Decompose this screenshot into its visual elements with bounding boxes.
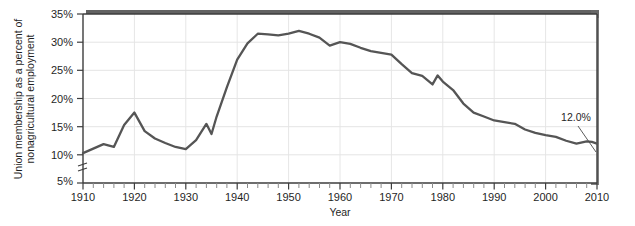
x-tick-label: 1910 <box>71 191 95 203</box>
x-tick-label: 1950 <box>276 191 300 203</box>
x-tick-label: 1990 <box>482 191 506 203</box>
x-tick-label: 1970 <box>379 191 403 203</box>
y-tick-label: 5% <box>57 175 73 187</box>
union-membership-chart: 35% 30% 25% 20% 15% 10% 5% <box>0 0 635 226</box>
y-tick-label: 20% <box>51 93 73 105</box>
y-tick-label: 15% <box>51 121 73 133</box>
x-tick-label: 2010 <box>585 191 609 203</box>
figure-container: 35% 30% 25% 20% 15% 10% 5% <box>0 0 635 226</box>
x-tick-label: 2000 <box>533 191 557 203</box>
x-tick-label: 1920 <box>122 191 146 203</box>
y-axis-title-line1: Union membership as a percent of <box>12 19 24 180</box>
x-axis-title: Year <box>329 206 351 218</box>
y-tick-label: 25% <box>51 64 73 76</box>
y-tick-label: 30% <box>51 36 73 48</box>
x-tick-label: 1980 <box>431 191 455 203</box>
y-tick-label: 10% <box>51 149 73 161</box>
endpoint-annotation-label: 12.0% <box>561 111 591 123</box>
y-axis-title-line2: nonagricultural employment <box>24 34 36 163</box>
x-tick-label: 1940 <box>225 191 249 203</box>
x-tick-label: 1960 <box>328 191 352 203</box>
x-tick-label: 1930 <box>174 191 198 203</box>
y-tick-label: 35% <box>51 8 73 20</box>
